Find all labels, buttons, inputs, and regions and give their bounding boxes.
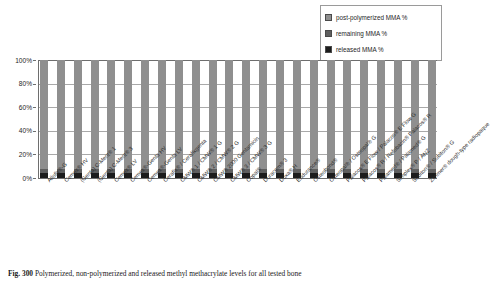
y-axis: 0%20%40%60%80%100% [0, 54, 36, 184]
bar [259, 60, 267, 178]
legend-item-remaining: remaining MMA % [325, 26, 437, 40]
y-axis-tick-mark [33, 60, 36, 61]
legend-label-remaining: remaining MMA % [336, 30, 387, 37]
chart-legend: post-polymerized MMA % remaining MMA % r… [320, 5, 442, 61]
y-axis-tick-label: 100% [15, 57, 32, 64]
y-axis-tick-mark [33, 84, 36, 85]
bar-segment-post-polymerized [276, 60, 284, 169]
y-axis-tick-label: 0% [22, 175, 32, 182]
bar-segment-post-polymerized [91, 60, 99, 169]
y-axis-tick-mark [33, 154, 36, 155]
figure-caption: Fig. 300 Polymerized, non-polymerized an… [8, 269, 440, 283]
legend-item-post-polymerized: post-polymerized MMA % [325, 10, 437, 24]
bar-segment-post-polymerized [40, 60, 48, 169]
y-axis-tick-mark [33, 178, 36, 179]
figure-number: Fig. 300 [8, 269, 33, 278]
y-axis-tick-mark [33, 107, 36, 108]
bar-segment-post-polymerized [141, 60, 149, 169]
y-axis-tick-label: 60% [19, 104, 32, 111]
y-axis-tick-mark [33, 131, 36, 132]
figure-caption-text: Polymerized, non-polymerized and release… [35, 269, 302, 278]
y-axis-tick-label: 40% [19, 127, 32, 134]
bar-segment-post-polymerized [74, 60, 82, 169]
bar [40, 60, 48, 178]
bar-segment-post-polymerized [343, 60, 351, 169]
legend-swatch-post-polymerized [325, 14, 332, 21]
bar-segment-post-polymerized [57, 60, 65, 169]
legend-swatch-released [325, 46, 332, 53]
legend-label-post-polymerized: post-polymerized MMA % [336, 14, 407, 21]
legend-item-released: released MMA % [325, 42, 437, 56]
legend-label-released: released MMA % [336, 46, 384, 53]
x-axis-labels: Allofix®-GCemex® HV(Genta) C-Ment® 1(Gen… [38, 179, 436, 257]
y-axis-tick-label: 80% [19, 80, 32, 87]
bar-segment-post-polymerized [327, 60, 335, 169]
bar-segment-post-polymerized [293, 60, 301, 169]
legend-swatch-remaining [325, 30, 332, 37]
y-axis-tick-label: 20% [19, 151, 32, 158]
bar [293, 60, 301, 178]
bar-segment-post-polymerized [310, 60, 318, 169]
